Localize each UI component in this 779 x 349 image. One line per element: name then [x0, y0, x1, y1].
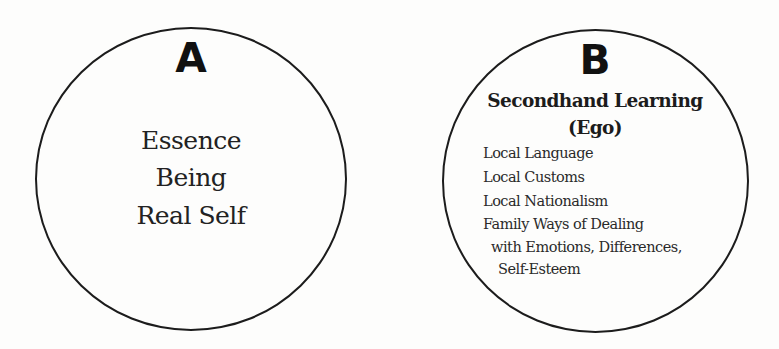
circle-a-text-essence: Essence [91, 128, 291, 153]
circle-b-label: B [554, 40, 636, 80]
circle-b-list-item-continuation: with Emotions, Differences, [491, 240, 682, 255]
circle-b-subtitle: (Ego) [470, 119, 720, 138]
circle-a-text-being: Being [91, 165, 291, 190]
diagram-canvas: A Essence Being Real Self B Secondhand L… [0, 0, 779, 349]
circle-b-list-item: Local Customs [483, 170, 585, 185]
circle-b-list-item: Local Language [483, 146, 593, 161]
circle-a-label: A [150, 38, 232, 78]
circle-a-text-real-self: Real Self [91, 203, 291, 228]
circle-b-list-item-continuation: Self-Esteem [498, 262, 580, 277]
circle-b-list-item: Family Ways of Dealing [483, 217, 644, 232]
circle-b-title: Secondhand Learning [470, 92, 720, 111]
circle-b-list-item: Local Nationalism [483, 194, 608, 209]
